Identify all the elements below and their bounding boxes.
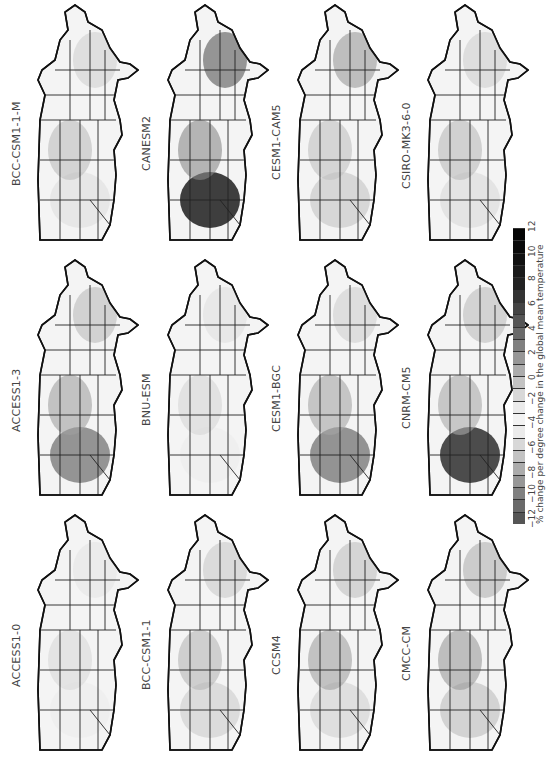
map-panel: CSIRO-MK3-6-0 xyxy=(400,0,536,252)
us-map xyxy=(140,255,276,507)
us-map xyxy=(270,510,406,762)
us-map xyxy=(140,0,276,252)
colorbar-swatch xyxy=(513,339,525,351)
map-panel: BCC-CSM1-1 xyxy=(140,510,276,762)
panel-label: CSIRO-MK3-6-0 xyxy=(400,102,413,189)
colorbar-swatch xyxy=(513,376,525,388)
colorbar-tick-label: 12 xyxy=(527,221,537,232)
colorbar-swatch xyxy=(513,401,525,413)
us-map xyxy=(140,510,276,762)
colorbar-swatch xyxy=(513,462,525,474)
colorbar-swatch xyxy=(513,499,525,511)
map-panel: CESM1-CAM5 xyxy=(270,0,406,252)
colorbar-swatch xyxy=(513,364,525,376)
colorbar-swatch xyxy=(513,388,525,400)
colorbar-swatch xyxy=(513,314,525,326)
map-panel: BCC-CSM1-1-M xyxy=(10,0,146,252)
colorbar-swatch xyxy=(513,240,525,252)
panel-label: CANESM2 xyxy=(140,116,153,171)
us-map xyxy=(270,255,406,507)
map-panel: BNU-ESM xyxy=(140,255,276,507)
panel-label: CMCC-CM xyxy=(400,626,413,681)
us-map xyxy=(400,0,536,252)
colorbar-swatch xyxy=(513,327,525,339)
panel-label: ACCESS1-3 xyxy=(10,369,23,432)
colorbar-swatch xyxy=(513,438,525,450)
us-map xyxy=(10,0,146,252)
colorbar-swatch xyxy=(513,425,525,437)
map-panel: CANESM2 xyxy=(140,0,276,252)
panel-label: CESM1-BGC xyxy=(270,365,283,432)
panel-label: BNU-ESM xyxy=(140,373,153,426)
us-map xyxy=(10,510,146,762)
colorbar-swatch xyxy=(513,512,525,524)
colorbar-swatch xyxy=(513,277,525,289)
panel-label: CNRM-CM5 xyxy=(400,366,413,429)
map-panel: CCSM4 xyxy=(270,510,406,762)
colorbar-title: % change per degree change in the global… xyxy=(535,244,545,524)
colorbar-swatch xyxy=(513,302,525,314)
map-panel: CESM1-BGC xyxy=(270,255,406,507)
panel-label: BCC-CSM1-1-M xyxy=(10,101,23,186)
panel-label: CESM1-CAM5 xyxy=(270,104,283,180)
colorbar-swatch xyxy=(513,265,525,277)
colorbar-swatch xyxy=(513,253,525,265)
colorbar-swatch xyxy=(513,228,525,240)
map-panel: CMCC-CM xyxy=(400,510,536,762)
panel-label: ACCESS1-0 xyxy=(10,624,23,687)
us-map xyxy=(10,255,146,507)
colorbar xyxy=(513,228,525,524)
panel-label: CCSM4 xyxy=(270,635,283,675)
map-panel: ACCESS1-3 xyxy=(10,255,146,507)
colorbar-swatch xyxy=(513,351,525,363)
colorbar-swatch xyxy=(513,450,525,462)
us-map xyxy=(400,510,536,762)
colorbar-swatch xyxy=(513,413,525,425)
map-panel: ACCESS1-0 xyxy=(10,510,146,762)
colorbar-swatch xyxy=(513,487,525,499)
panel-label: BCC-CSM1-1 xyxy=(140,619,153,690)
colorbar-swatch xyxy=(513,475,525,487)
us-map xyxy=(270,0,406,252)
colorbar-swatch xyxy=(513,290,525,302)
